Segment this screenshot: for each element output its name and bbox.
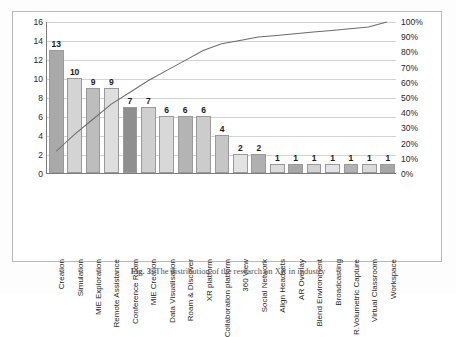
y2-axis-tick-label: 40% — [401, 109, 418, 117]
y2-axis-tick-label: 50% — [401, 94, 418, 102]
y-axis-tick-label: 14 — [34, 37, 43, 45]
y-axis-tick-label: 10 — [34, 75, 43, 83]
y-axis-tick-label: 12 — [34, 56, 43, 64]
y2-axis-tick-label: 70% — [401, 64, 418, 72]
caption-label: Fig. 3. — [131, 266, 153, 276]
x-axis-category-labels: CreationSimulationMiE ExplorationRemote … — [46, 175, 396, 261]
x-axis-tick-label: Simulation — [77, 259, 85, 296]
y-axis-tick-label: 0 — [38, 170, 43, 178]
y2-axis-tick-label: 90% — [401, 33, 418, 41]
y2-axis-tick-label: 80% — [401, 48, 418, 56]
y-axis-tick-label: 16 — [34, 18, 43, 26]
y2-axis-tick-label: 0% — [401, 170, 413, 178]
y-axis-tick-label: 8 — [38, 94, 43, 102]
x-axis-tick-label: Workspace — [390, 259, 398, 299]
y2-axis-tick-label: 20% — [401, 140, 418, 148]
pareto-chart: 0246810121416 0%10%20%30%40%50%60%70%80%… — [12, 11, 442, 262]
y-axis-tick-label: 2 — [38, 151, 43, 159]
plot-area: 0246810121416 0%10%20%30%40%50%60%70%80%… — [46, 22, 396, 174]
y-axis-tick-label: 4 — [38, 132, 43, 140]
cumulative-line — [47, 22, 396, 173]
y2-axis-tick-label: 100% — [401, 18, 423, 26]
y-axis-tick-label: 6 — [38, 113, 43, 121]
y2-axis-tick-label: 60% — [401, 79, 418, 87]
y2-axis-tick-label: 30% — [401, 124, 418, 132]
caption-text: The distribution of the research on XR i… — [155, 266, 325, 276]
figure-caption: Fig. 3. The distribution of the research… — [0, 266, 456, 276]
y2-axis-tick-label: 10% — [401, 155, 418, 163]
